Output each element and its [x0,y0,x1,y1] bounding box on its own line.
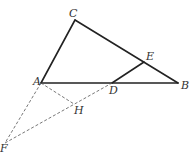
solid-lines [41,20,178,83]
dashed-segment-af [5,83,41,143]
dashed-segment-fd [5,83,112,143]
segment-de [112,62,144,83]
point-label-a: A [32,75,41,88]
point-label-e: E [145,50,154,63]
point-label-d: D [108,84,118,97]
geometry-diagram: ABCDEFH [0,0,194,156]
dashed-segment-ah [41,83,74,104]
segment-ca [41,20,75,83]
point-labels: ABCDEFH [0,7,189,155]
point-label-b: B [180,79,189,92]
point-label-c: C [69,7,78,20]
dashed-lines [5,83,112,143]
diagram-canvas: ABCDEFH [0,0,194,156]
point-label-f: F [0,142,8,155]
point-label-h: H [73,104,84,117]
